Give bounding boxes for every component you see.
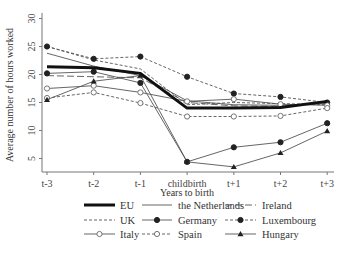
legend-label: EU	[120, 200, 134, 211]
open-circle-marker	[91, 90, 96, 95]
series-line	[47, 76, 327, 167]
x-tick-label: t+1	[227, 178, 240, 189]
open-circle-marker	[278, 113, 283, 118]
open-circle-marker	[44, 86, 49, 91]
open-circle-marker	[91, 83, 96, 88]
series-luxembourg	[44, 44, 329, 105]
filled-circle-marker	[325, 121, 330, 126]
legend-label: Ireland	[262, 200, 292, 211]
legend-item-uk: UK	[84, 215, 136, 226]
series-group	[44, 44, 330, 169]
open-circle-marker	[185, 114, 190, 119]
series-hungary	[44, 73, 330, 169]
x-tick-label: t-2	[88, 178, 99, 189]
y-tick-label: 30	[26, 14, 37, 24]
x-axis-title: Years to birth	[160, 187, 214, 198]
open-circle-marker	[185, 99, 190, 104]
y-tick-label: 25	[26, 42, 37, 52]
y-tick-label: 20	[26, 70, 37, 80]
open-circle-marker	[138, 100, 143, 105]
filled-circle-marker	[138, 80, 143, 85]
legend-label: UK	[120, 215, 136, 226]
legend-item-luxembourg: Luxembourg	[225, 215, 317, 226]
x-tick-label: t-3	[41, 178, 52, 189]
legend-label: Hungary	[262, 229, 299, 240]
filled-triangle-marker	[324, 128, 330, 133]
open-circle-marker	[231, 114, 236, 119]
legend-item-spain: Spain	[142, 229, 203, 240]
legend-label: Spain	[178, 229, 203, 240]
filled-circle-marker	[238, 217, 243, 222]
filled-circle-marker	[185, 74, 190, 79]
legend-label: Germany	[178, 215, 218, 226]
open-circle-marker	[325, 106, 330, 111]
legend-item-the-netherlands: the Netherlands	[142, 200, 244, 211]
filled-circle-marker	[44, 44, 49, 49]
legend-item-hungary: Hungary	[225, 229, 299, 240]
line-chart: 51015202530t-3t-2t-1childbirtht+1t+2t+3 …	[0, 0, 349, 255]
y-tick-label: 15	[26, 98, 37, 108]
legend-item-eu: EU	[84, 200, 134, 211]
series-italy	[44, 83, 329, 108]
open-circle-marker	[138, 90, 143, 95]
axes: 51015202530t-3t-2t-1childbirtht+1t+2t+3	[26, 13, 334, 189]
legend-label: Italy	[120, 229, 140, 240]
filled-circle-marker	[44, 71, 49, 76]
open-circle-marker	[154, 231, 159, 236]
legend-item-italy: Italy	[84, 229, 140, 240]
x-tick-label: t+2	[274, 178, 287, 189]
legend: EUthe NetherlandsIrelandUKGermanyLuxembo…	[84, 200, 317, 240]
x-tick-label: t+3	[320, 178, 333, 189]
filled-circle-marker	[91, 69, 96, 74]
y-tick-label: 10	[26, 126, 37, 136]
legend-item-germany: Germany	[142, 215, 218, 226]
x-tick-label: t-1	[135, 178, 146, 189]
filled-circle-marker	[231, 145, 236, 150]
y-axis-title: Average number of hours worked	[4, 28, 15, 162]
filled-circle-marker	[278, 94, 283, 99]
filled-triangle-marker	[278, 150, 284, 155]
open-circle-marker	[97, 231, 102, 236]
filled-circle-marker	[231, 91, 236, 96]
filled-circle-marker	[91, 56, 96, 61]
legend-label: the Netherlands	[178, 200, 244, 211]
legend-label: Luxembourg	[262, 215, 317, 226]
filled-circle-marker	[138, 54, 143, 59]
filled-circle-marker	[154, 217, 159, 222]
open-circle-marker	[231, 97, 236, 102]
y-tick-label: 5	[26, 156, 37, 161]
filled-circle-marker	[278, 140, 283, 145]
